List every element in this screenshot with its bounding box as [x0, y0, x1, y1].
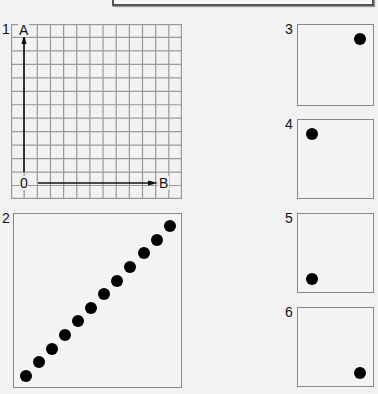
- dot: [151, 234, 163, 246]
- panel-1-number: 1: [2, 22, 10, 36]
- dot: [111, 275, 123, 287]
- panel-3-number: 3: [285, 22, 293, 36]
- panel-5-number: 5: [285, 211, 293, 225]
- dot: [354, 33, 366, 45]
- caption-box: [112, 0, 374, 6]
- dot: [20, 370, 32, 382]
- dot: [59, 329, 71, 341]
- dot: [72, 315, 84, 327]
- panel-6-number: 6: [285, 305, 293, 319]
- dot: [33, 356, 45, 368]
- dot: [354, 367, 366, 379]
- dot: [306, 128, 318, 140]
- dot: [306, 273, 318, 285]
- grid-graphic: [11, 24, 182, 199]
- axis-a-label: A: [18, 23, 29, 37]
- panel-4-number: 4: [285, 117, 293, 131]
- dot: [164, 220, 176, 232]
- panel-2-number: 2: [2, 211, 10, 225]
- dot: [98, 288, 110, 300]
- origin-label: 0: [20, 176, 28, 190]
- axis-b-label: B: [158, 176, 169, 190]
- dot: [46, 343, 58, 355]
- dot: [124, 261, 136, 273]
- panel-1-grid: A 0 B: [11, 24, 182, 199]
- dot: [85, 302, 97, 314]
- arrow-right-icon: [148, 181, 158, 186]
- dot: [138, 247, 150, 259]
